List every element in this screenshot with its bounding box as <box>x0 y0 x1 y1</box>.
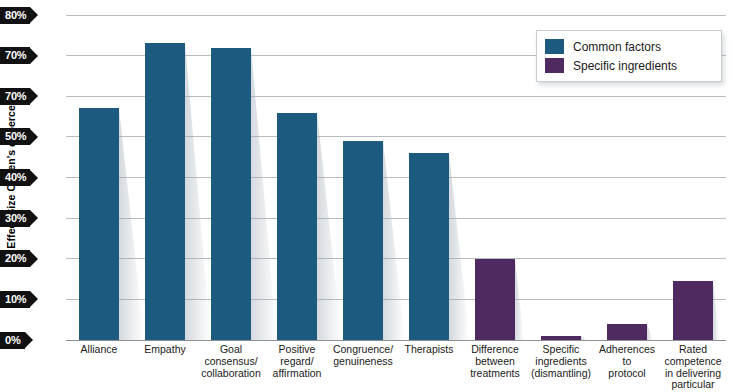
x-axis-label-line: regard/ <box>264 356 330 368</box>
y-axis-tick-2: 70% <box>0 88 38 105</box>
bar-slot <box>145 15 185 340</box>
x-axis-label-8: Adherences toprotocol <box>594 344 660 379</box>
tick-arrow-icon <box>30 48 38 64</box>
x-axis-label-line: collaboration <box>198 368 264 380</box>
tick-arrow-icon <box>30 88 38 104</box>
legend-label: Specific ingredients <box>573 59 677 73</box>
x-axis-label-line: competence <box>660 356 726 368</box>
y-axis-tick-7: 10% <box>0 291 38 308</box>
y-axis-tick-label: 0% <box>0 332 25 349</box>
x-axis-label-line: Alliance <box>66 344 132 356</box>
x-axis-label-line: protocol <box>594 368 660 380</box>
bar-shadow <box>449 153 470 340</box>
tick-arrow-icon <box>30 170 38 186</box>
bar-slot <box>409 15 449 340</box>
tick-arrow-icon <box>25 332 33 348</box>
legend-label: Common factors <box>573 40 661 54</box>
y-axis-tick-label: 20% <box>0 250 30 267</box>
y-axis-tick-label: 50% <box>0 128 30 145</box>
bar-slot <box>343 15 383 340</box>
y-axis-tick-1: 70% <box>0 47 38 64</box>
x-axis-label-line: treatments <box>462 368 528 380</box>
chart-legend: Common factorsSpecific ingredients <box>536 30 722 82</box>
legend-item-0[interactable]: Common factors <box>545 37 713 56</box>
x-axis-label-line: genuineness <box>330 356 396 368</box>
bar-slot <box>277 15 317 340</box>
x-axis-label-6: Differencebetweentreatments <box>462 344 528 379</box>
x-axis-label-5: Therapists <box>396 344 462 356</box>
x-axis-label-line: between <box>462 356 528 368</box>
bar-shadow <box>251 48 277 341</box>
bar-common-1[interactable] <box>145 43 185 340</box>
x-axis-label-line: Therapists <box>396 344 462 356</box>
x-axis-label-0: Alliance <box>66 344 132 356</box>
legend-item-1[interactable]: Specific ingredients <box>545 56 713 75</box>
bar-shadow <box>383 141 405 340</box>
x-axis-label-line: (dismantling) <box>528 368 594 380</box>
bar-shadow <box>647 324 653 340</box>
tick-arrow-icon <box>30 291 38 307</box>
y-axis-tick-label: 70% <box>0 88 30 105</box>
x-axis-label-line: affirmation <box>264 368 330 380</box>
bar-slot <box>475 15 515 340</box>
legend-swatch <box>545 39 564 54</box>
x-axis-label-3: Positiveregard/affirmation <box>264 344 330 379</box>
y-axis-tick-label: 80% <box>0 7 30 24</box>
tick-arrow-icon <box>30 129 38 145</box>
y-axis-title-prefix: Effect Size Cohen's <box>5 147 17 249</box>
y-axis-tick-4: 40% <box>0 169 38 186</box>
y-axis-tick-label: 40% <box>0 169 30 186</box>
y-axis-tick-label: 10% <box>0 291 30 308</box>
bar-common-2[interactable] <box>211 48 251 341</box>
y-axis-tick-3: 50% <box>0 128 38 145</box>
bar-slot <box>211 15 251 340</box>
x-axis-label-line: consensus/ <box>198 356 264 368</box>
y-axis-tick-0: 80% <box>0 7 38 24</box>
bar-common-3[interactable] <box>277 113 317 341</box>
y-axis-tick-8: 0% <box>0 332 33 349</box>
bar-shadow <box>317 113 342 341</box>
x-axis-label-4: Congruence/genuineness <box>330 344 396 368</box>
tick-arrow-icon <box>30 210 38 226</box>
legend-swatch <box>545 58 564 73</box>
bar-specific-8[interactable] <box>607 324 647 340</box>
bar-shadow <box>713 281 719 340</box>
x-axis-labels: AllianceEmpathyGoalconsensus/collaborati… <box>66 344 726 392</box>
x-axis-label-line: particular <box>660 379 726 391</box>
x-axis-label-9: Ratedcompetencein deliveringparticular <box>660 344 726 391</box>
x-axis-label-7: Specificingredients(dismantling) <box>528 344 594 379</box>
bar-common-4[interactable] <box>343 141 383 340</box>
bar-common-0[interactable] <box>79 108 119 340</box>
y-axis-tick-5: 30% <box>0 210 38 227</box>
bar-specific-7[interactable] <box>541 336 581 340</box>
x-axis-label-line: Adherences to <box>594 344 660 368</box>
bar-shadow <box>185 43 211 340</box>
bar-chart: Effect Size Cohen's d (percent) Alliance… <box>0 0 733 392</box>
bar-specific-6[interactable] <box>475 259 515 340</box>
tick-arrow-icon <box>30 251 38 267</box>
y-axis-tick-6: 20% <box>0 250 38 267</box>
y-axis-tick-label: 70% <box>0 47 30 64</box>
tick-arrow-icon <box>30 7 38 23</box>
bar-shadow <box>119 108 144 340</box>
bar-common-5[interactable] <box>409 153 449 340</box>
bar-specific-9[interactable] <box>673 281 713 340</box>
x-axis-label-line: Empathy <box>132 344 198 356</box>
x-axis-label-line: ingredients <box>528 356 594 368</box>
x-axis-label-1: Empathy <box>132 344 198 356</box>
y-axis-tick-label: 30% <box>0 210 30 227</box>
x-axis-label-2: Goalconsensus/collaboration <box>198 344 264 379</box>
bar-slot <box>79 15 119 340</box>
